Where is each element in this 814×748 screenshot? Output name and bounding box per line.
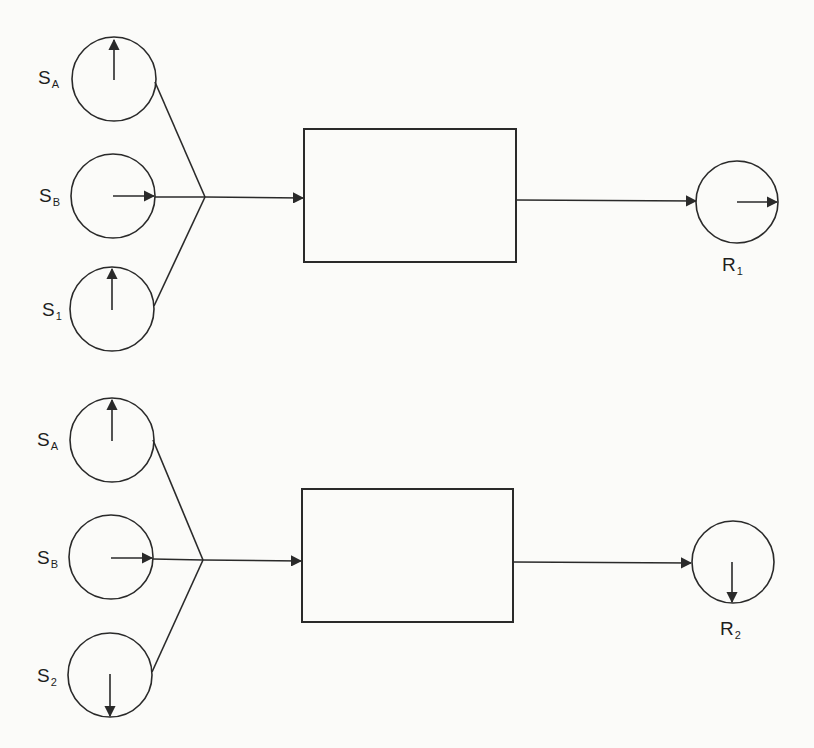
source-label: S [38,67,51,88]
bottom-diagram [68,398,774,717]
label-s1-top: S1 [42,300,62,319]
source-subscript: A [51,440,58,452]
result-label: R [722,254,736,275]
source-label: S [42,299,55,320]
label-sb-top: SB [39,186,60,205]
result-label: R [720,618,734,639]
output-arrow-bottom [513,562,691,563]
result-r1 [696,161,778,243]
source-subscript: 1 [56,310,62,322]
source-subscript: 2 [51,676,57,688]
converging-lines-top [154,82,205,306]
result-subscript: 1 [737,265,743,277]
spin-combination-diagram [0,0,814,748]
converging-lines-bottom [152,440,203,672]
input-arrow-top [205,197,303,198]
result-subscript: 2 [735,629,741,641]
source-sa-top [72,37,156,121]
source-subscript: B [53,196,60,208]
source-label: S [37,429,50,450]
source-sb-bottom [69,515,153,599]
source-subscript: B [51,558,58,570]
source-sa-bottom [70,398,154,482]
source-sb-top [71,154,155,238]
label-r1: R1 [722,255,743,274]
input-arrow-bottom [203,560,301,561]
label-s2-bottom: S2 [37,666,57,685]
source-label: S [37,547,50,568]
label-sa-bottom: SA [37,430,58,449]
source-label: S [37,665,50,686]
label-sa-top: SA [38,68,59,87]
label-sb-bottom: SB [37,548,58,567]
scanned-page: SA SB S1 R1 SA SB S2 R2 [0,0,814,748]
source-s1-top [70,267,154,351]
label-r2: R2 [720,619,741,638]
output-arrow-top [516,200,696,201]
source-subscript: A [52,78,59,90]
result-r2 [692,521,774,603]
source-label: S [39,185,52,206]
source-s2-bottom [68,633,152,717]
top-diagram [70,37,778,351]
process-box-top [304,129,516,262]
process-box-bottom [302,489,513,622]
